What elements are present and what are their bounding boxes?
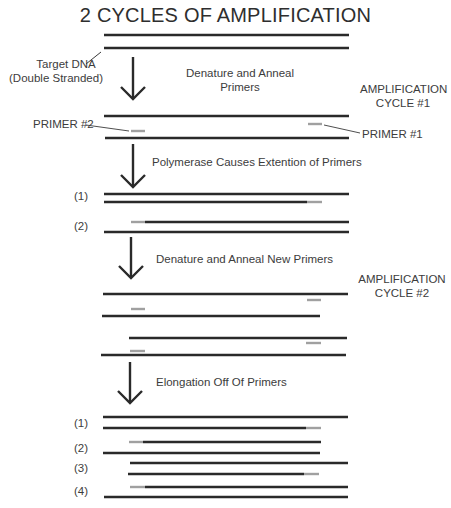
cycle1-line1: AMPLIFICATION [360,82,446,96]
step-polymerase-label: Polymerase Causes Extention of Primers [152,156,362,168]
strand-label-c2-4: (4) [74,485,88,497]
step-elongation-label: Elongation Off Of Primers [156,376,287,388]
cycle1-annealed [104,116,349,138]
step-denature-anneal-label: Denature and Anneal Primers [176,66,304,94]
cycle1-line2: CYCLE #1 [360,96,446,110]
step1-line2: Primers [176,80,304,94]
target-dna-label-line1: Target DNA [8,57,104,71]
cycle2-label: AMPLIFICATION CYCLE #2 [358,272,446,300]
cycle2-line1: AMPLIFICATION [358,272,446,286]
step-denature-new-primers-label: Denature and Anneal New Primers [156,253,333,265]
strand-label-c2-3: (3) [74,462,88,474]
cycle2-annealed [101,294,348,355]
primer2-label: PRIMER #2 [33,118,94,130]
strand-label-1: (1) [74,190,88,202]
original-dna [104,35,349,48]
primer1-label: PRIMER #1 [362,128,423,140]
cycle2-products [103,417,348,497]
step1-line1: Denature and Anneal [176,66,304,80]
cycle1-label: AMPLIFICATION CYCLE #1 [360,82,446,110]
arrow-down-icon [121,144,145,187]
primer1-leader [324,125,360,133]
strand-label-c2-1: (1) [74,417,88,429]
cycle1-products [104,194,349,232]
diagram-title: 2 CYCLES OF AMPLIFICATION [0,4,451,27]
strand-label-c2-2: (2) [74,442,88,454]
cycle2-line2: CYCLE #2 [358,286,446,300]
strand-label-2: (2) [74,220,88,232]
target-dna-label-line2: (Double Stranded) [8,71,104,85]
arrow-down-icon [119,237,143,278]
arrow-down-icon [118,362,142,403]
arrow-down-icon [121,57,145,99]
target-dna-label: Target DNA (Double Stranded) [8,57,104,85]
